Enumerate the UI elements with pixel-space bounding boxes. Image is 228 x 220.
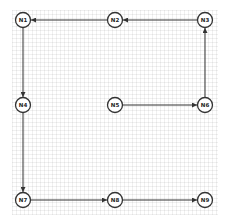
node-label: N6 bbox=[201, 102, 210, 108]
node-n4[interactable]: N4 bbox=[16, 98, 31, 113]
node-label: N7 bbox=[19, 197, 28, 203]
node-label: N2 bbox=[111, 17, 120, 23]
node-n5[interactable]: N5 bbox=[108, 98, 123, 113]
node-n1[interactable]: N1 bbox=[16, 13, 31, 28]
node-n6[interactable]: N6 bbox=[198, 98, 213, 113]
node-n3[interactable]: N3 bbox=[198, 13, 213, 28]
node-label: N4 bbox=[19, 102, 28, 108]
node-label: N9 bbox=[201, 197, 210, 203]
node-n2[interactable]: N2 bbox=[108, 13, 123, 28]
diagram-canvas: N1 N2 N3 N4 N5 N6 N7 N8 bbox=[0, 0, 228, 220]
node-label: N5 bbox=[111, 102, 120, 108]
node-label: N3 bbox=[201, 17, 210, 23]
node-label: N1 bbox=[19, 17, 28, 23]
node-n8[interactable]: N8 bbox=[108, 193, 123, 208]
node-n7[interactable]: N7 bbox=[16, 193, 31, 208]
graph-svg: N1 N2 N3 N4 N5 N6 N7 N8 bbox=[0, 0, 228, 220]
node-n9[interactable]: N9 bbox=[198, 193, 213, 208]
node-label: N8 bbox=[111, 197, 120, 203]
